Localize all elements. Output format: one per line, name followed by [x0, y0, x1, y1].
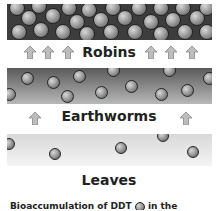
ddt-molecule-icon	[131, 4, 147, 16]
up-arrow-icon	[180, 112, 192, 125]
ddt-molecule-icon	[155, 88, 168, 101]
ddt-molecule-icon	[177, 24, 193, 40]
ddt-molecule-icon	[103, 24, 119, 40]
ddt-molecule-icon	[7, 138, 15, 150]
caption: Bioaccumulation of DDT in the	[10, 201, 177, 210]
ddt-molecule-icon	[79, 26, 95, 40]
ddt-molecule-icon	[153, 26, 169, 40]
ddt-molecule-icon	[73, 70, 86, 83]
ddt-molecule-icon	[11, 24, 27, 40]
up-arrow-icon	[145, 46, 157, 59]
ddt-molecule-icon	[33, 22, 49, 38]
ddt-molecule-icon	[135, 202, 145, 211]
ddt-molecule-icon	[181, 84, 194, 97]
earthworms-band	[7, 68, 212, 104]
ddt-molecule-icon	[21, 72, 34, 85]
ddt-molecule-icon	[125, 80, 138, 93]
up-arrow-icon	[186, 46, 198, 59]
ddt-molecule-icon	[157, 134, 169, 142]
ddt-molecule-icon	[55, 24, 71, 40]
ddt-molecule-icon	[49, 148, 61, 160]
ddt-molecule-icon	[45, 8, 61, 24]
caption-suffix: in the	[148, 201, 177, 210]
up-arrow-icon	[165, 46, 177, 59]
ddt-molecule-icon	[187, 146, 199, 158]
ddt-molecule-icon	[203, 72, 212, 85]
ddt-molecule-icon	[163, 68, 176, 77]
leaves-band	[7, 134, 212, 166]
ddt-molecule-icon	[7, 88, 16, 101]
robins-band	[7, 4, 212, 40]
ddt-molecule-icon	[107, 68, 120, 77]
ddt-molecule-icon	[199, 24, 212, 40]
ddt-molecule-icon	[47, 76, 60, 89]
caption-text: Bioaccumulation of DDT	[10, 201, 132, 210]
ddt-molecule-icon	[115, 142, 127, 154]
level-label-leaves: Leaves	[0, 172, 218, 188]
ddt-molecule-icon	[117, 10, 133, 26]
ddt-molecule-icon	[95, 86, 108, 99]
ddt-molecule-icon	[127, 24, 143, 40]
ddt-molecule-icon	[61, 90, 74, 103]
ddt-molecule-icon	[199, 4, 212, 16]
